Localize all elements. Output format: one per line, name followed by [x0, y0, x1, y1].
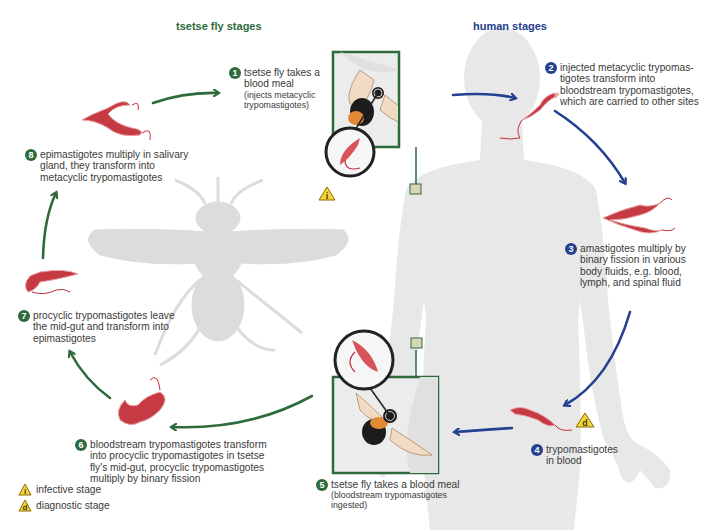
step-number-badge: 5: [316, 479, 328, 491]
parasite-stage-6: [118, 378, 165, 425]
step-7-line-2: the mid-gut and transform into: [33, 321, 175, 332]
step-2-line-3: bloodstream trypomastigotes,: [560, 85, 699, 96]
step-3-line-3: body fluids, e.g. blood,: [580, 266, 686, 277]
svg-text:d: d: [23, 503, 28, 512]
legend-item-infective: i infective stage: [18, 481, 110, 497]
step-number-badge: 3: [565, 243, 577, 255]
step-3: 3 amastigotes multiply by binary fission…: [565, 243, 686, 289]
step-2-line-2: tigotes transform into: [560, 73, 699, 84]
warning-triangle-icon: i: [18, 483, 32, 496]
step-6-line-1: bloodstream trypomastigotes transform: [90, 439, 267, 450]
fly-inset-bottom: [333, 331, 438, 473]
step-7: 7 procyclic trypomastigotes leave the mi…: [18, 310, 175, 344]
step-6: 6 bloodstream trypomastigotes transform …: [75, 439, 267, 485]
parasite-stage-8: [82, 102, 150, 140]
step-5-sub-1: (bloodstream trypomastigotes: [331, 490, 460, 500]
step-number-badge: 1: [229, 67, 241, 79]
step-6-line-2: into procyclic trypomastigotes in tsetse: [90, 450, 267, 461]
infective-stage-icon: i: [319, 187, 335, 201]
fly-inset-top: [326, 52, 425, 194]
header-tsetse-fly-stages: tsetse fly stages: [176, 20, 262, 32]
step-4-line-2: in blood: [546, 455, 618, 466]
step-3-line-4: lymph, and spinal fluid: [580, 277, 686, 288]
step-1-line-1: tsetse fly takes a: [244, 67, 320, 78]
step-2-line-1: injected metacyclic trypomas-: [560, 62, 699, 73]
step-number-badge: 8: [25, 149, 37, 161]
arrow-7-to-8: [43, 193, 56, 258]
step-8-line-3: metacyclic trypomastigotes: [40, 172, 188, 183]
legend-label-diagnostic: diagnostic stage: [36, 500, 110, 511]
step-8: 8 epimastigotes multiply in salivary gla…: [25, 149, 188, 183]
svg-text:d: d: [582, 418, 588, 428]
step-5: 5 tsetse fly takes a blood meal (bloodst…: [316, 479, 460, 510]
svg-text:i: i: [326, 191, 329, 201]
legend: i infective stage d diagnostic stage: [18, 481, 110, 513]
step-5-line-1: tsetse fly takes a blood meal: [331, 479, 460, 490]
step-number-badge: 7: [18, 310, 30, 322]
arrow-6-to-7: [70, 352, 110, 398]
arrow-5-to-6: [172, 396, 312, 427]
step-6-line-4: multiply by binary fission: [90, 473, 267, 484]
step-6-line-3: fly's mid-gut, procyclic trypomastigotes: [90, 462, 267, 473]
step-number-badge: 4: [531, 444, 543, 456]
step-1-sub-2: trypomastigotes): [244, 100, 320, 110]
step-4-line-1: trypomastigotes: [546, 444, 618, 455]
legend-item-diagnostic: d diagnostic stage: [18, 497, 110, 513]
step-number-badge: 6: [75, 439, 87, 451]
step-1: 1 tsetse fly takes a blood meal (injects…: [229, 67, 320, 110]
header-human-stages: human stages: [473, 20, 547, 32]
step-1-line-2: blood meal: [244, 78, 320, 89]
step-8-line-1: epimastigotes multiply in salivary: [40, 149, 188, 160]
step-3-line-2: binary fission in various: [580, 254, 686, 265]
step-2: 2 injected metacyclic trypomas- tigotes …: [545, 62, 699, 108]
legend-label-infective: infective stage: [36, 484, 101, 495]
step-1-sub-1: (injects metacyclic: [244, 90, 320, 100]
step-8-line-2: gland, they transform into: [40, 160, 188, 171]
parasite-stage-7: [25, 270, 78, 293]
warning-triangle-icon: d: [18, 499, 32, 512]
parasite-stage-3: [603, 198, 675, 233]
arrow-8-to-1: [153, 93, 218, 103]
fly-bite-marker-top: [410, 184, 421, 194]
step-7-line-3: epimastigotes: [33, 333, 175, 344]
step-3-line-1: amastigotes multiply by: [580, 243, 686, 254]
fly-bite-marker-bottom: [411, 338, 422, 348]
step-4: 4 trypomastigotes in blood: [531, 444, 618, 467]
svg-text:i: i: [24, 487, 26, 496]
step-number-badge: 2: [545, 62, 557, 74]
step-7-line-1: procyclic trypomastigotes leave: [33, 310, 175, 321]
step-5-sub-2: ingested): [331, 500, 460, 510]
step-2-line-4: which are carried to other sites: [560, 96, 699, 107]
